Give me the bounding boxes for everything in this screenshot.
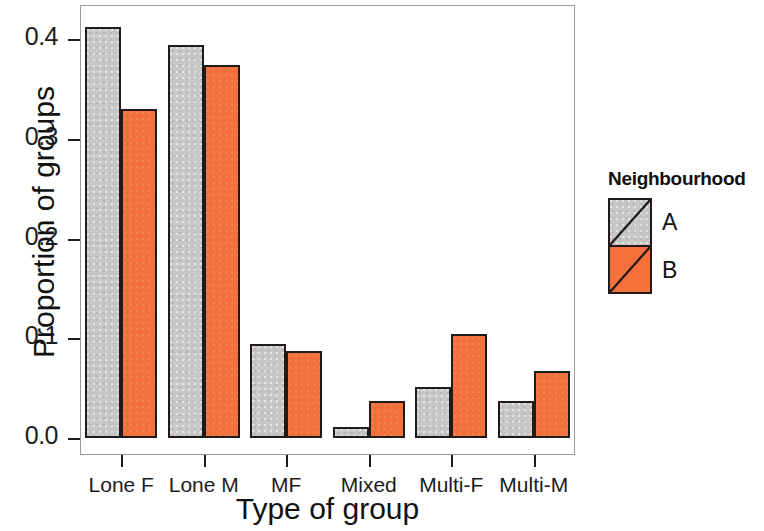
legend-entry-b[interactable]: B xyxy=(608,246,758,294)
bar-multi-m-b xyxy=(534,371,570,438)
legend-swatch-b xyxy=(608,246,652,294)
x-tick-1 xyxy=(121,455,123,467)
legend-title: Neighbourhood xyxy=(608,168,758,190)
bar-multi-f-a xyxy=(415,387,451,438)
bar-multi-m-a xyxy=(498,401,534,438)
x-axis-title: Type of group xyxy=(80,492,575,526)
diagonal-line-icon xyxy=(610,247,650,292)
legend-entries: A B xyxy=(608,198,758,294)
bar-lone-f-b xyxy=(121,109,157,438)
bar-chart-figure: 0.00.10.20.30.4 Lone FLone MMFMixedMulti… xyxy=(0,0,764,531)
y-axis-title: Proportion of groups xyxy=(27,12,61,432)
y-tick-4 xyxy=(68,139,80,141)
legend-entry-a[interactable]: A xyxy=(608,198,758,246)
bar-lone-f-a xyxy=(85,27,121,438)
bar-mf-b xyxy=(286,351,322,438)
y-tick-2 xyxy=(68,338,80,340)
bar-multi-f-b xyxy=(451,334,487,438)
x-tick-4 xyxy=(369,455,371,467)
x-tick-3 xyxy=(286,455,288,467)
bar-mixed-b xyxy=(369,401,405,438)
bar-mixed-a xyxy=(333,427,369,438)
bar-lone-m-b xyxy=(204,65,240,438)
x-tick-5 xyxy=(451,455,453,467)
x-tick-6 xyxy=(534,455,536,467)
legend-label-a: A xyxy=(662,209,677,236)
plot-area xyxy=(80,5,575,455)
x-tick-2 xyxy=(204,455,206,467)
y-tick-3 xyxy=(68,239,80,241)
diagonal-line-icon xyxy=(610,200,650,245)
bar-lone-m-a xyxy=(168,45,204,438)
bar-mf-a xyxy=(250,344,286,438)
y-tick-5 xyxy=(68,39,80,41)
legend: Neighbourhood A B xyxy=(608,168,758,294)
legend-label-b: B xyxy=(662,257,677,284)
y-tick-1 xyxy=(68,438,80,440)
legend-swatch-a xyxy=(608,198,652,246)
